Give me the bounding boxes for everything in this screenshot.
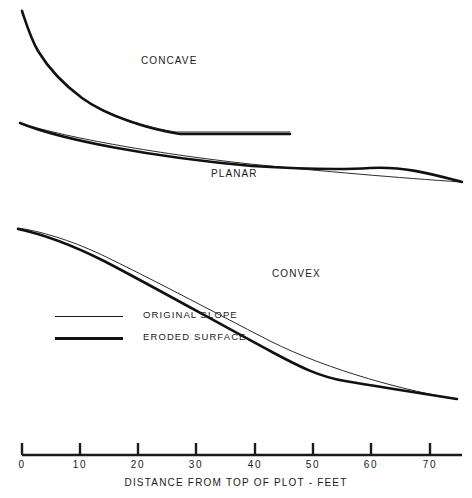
concave-label: CONCAVE <box>141 55 197 66</box>
legend-line-thick-icon <box>55 337 123 340</box>
tick-label-70: 70 <box>423 459 437 470</box>
concave-original-slope-line <box>22 10 290 132</box>
legend-label-original-slope: ORIGINAL SLOPE <box>143 309 238 320</box>
tick-label-10: 10 <box>73 459 87 470</box>
concave-eroded-surface-line <box>22 11 290 134</box>
legend-line-thin-icon <box>55 316 123 317</box>
tick-label-40: 40 <box>248 459 262 470</box>
x-axis <box>22 443 462 455</box>
planar-label: PLANAR <box>211 168 258 179</box>
concave-profile-group <box>22 10 290 134</box>
legend-label-eroded-surface: ERODED SURFACE <box>143 331 247 342</box>
tick-label-0: 0 <box>18 459 25 470</box>
tick-label-30: 30 <box>189 459 203 470</box>
tick-label-20: 20 <box>131 459 145 470</box>
hillslope-profile-chart <box>0 0 472 498</box>
convex-label: CONVEX <box>272 268 321 279</box>
tick-label-50: 50 <box>306 459 320 470</box>
tick-label-60: 60 <box>364 459 378 470</box>
x-axis-caption: DISTANCE FROM TOP OF PLOT - FEET <box>0 477 472 488</box>
